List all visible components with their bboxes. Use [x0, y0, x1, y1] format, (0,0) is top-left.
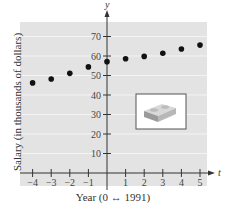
data-point	[104, 59, 110, 65]
x-tick-label: 3	[160, 177, 165, 188]
x-axis-name: t	[218, 167, 221, 178]
x-tick-label: 4	[179, 177, 184, 188]
data-point	[86, 64, 92, 70]
data-point	[123, 56, 129, 62]
x-tick-label: −1	[83, 177, 94, 188]
plot-svg: ty10203040506070−4−3−2−112345	[0, 0, 226, 211]
y-axis-arrow-icon	[105, 10, 110, 17]
y-tick-label: 40	[91, 90, 101, 101]
data-point	[197, 42, 203, 48]
y-axis-name: y	[104, 0, 110, 10]
y-tick-label: 60	[91, 51, 101, 62]
x-tick-label: 5	[198, 177, 203, 188]
data-point	[48, 76, 54, 82]
data-point	[67, 71, 73, 77]
x-tick-label: −2	[64, 177, 75, 188]
y-axis-label: Salary (in thousands of dollars)	[11, 17, 23, 187]
y-tick-label: 50	[91, 70, 101, 81]
salary-scatter-chart: ty10203040506070−4−3−2−112345 Salary (in…	[0, 0, 226, 211]
brick-hole-icon	[150, 108, 158, 112]
y-tick-label: 70	[91, 31, 101, 42]
brick-hole-icon	[161, 105, 169, 109]
y-tick-label: 30	[91, 109, 101, 120]
data-point	[141, 54, 147, 60]
y-tick-label: 10	[91, 148, 101, 159]
data-point	[160, 50, 166, 56]
x-axis-label: Year (0 ↔ 1991)	[40, 191, 186, 203]
x-tick-label: 2	[142, 177, 147, 188]
data-point	[179, 46, 185, 52]
y-tick-label: 20	[91, 129, 101, 140]
x-tick-label: 1	[123, 177, 128, 188]
data-point	[30, 80, 36, 86]
x-tick-label: −3	[46, 177, 57, 188]
x-axis-arrow-icon	[208, 171, 215, 176]
x-tick-label: −4	[27, 177, 38, 188]
